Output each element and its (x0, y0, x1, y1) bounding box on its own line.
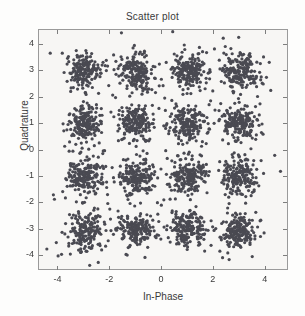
y-tick-mark (39, 176, 43, 177)
x-tick-mark-top (109, 30, 110, 34)
y-tick-label: -3 (16, 223, 34, 233)
y-tick-mark-right (283, 255, 287, 256)
y-tick-label: 2 (16, 91, 34, 101)
x-tick-label: -2 (97, 274, 121, 284)
y-tick-mark-right (283, 44, 287, 45)
x-tick-mark-top (57, 30, 58, 34)
y-tick-mark-right (283, 70, 287, 71)
y-tick-mark-right (283, 176, 287, 177)
x-axis-label: In-Phase (38, 291, 288, 302)
x-tick-mark (265, 266, 266, 270)
x-tick-mark (213, 266, 214, 270)
x-tick-mark-top (161, 30, 162, 34)
y-tick-mark-right (283, 150, 287, 151)
y-tick-mark (39, 97, 43, 98)
y-tick-mark-right (283, 229, 287, 230)
x-tick-label: 0 (149, 274, 173, 284)
x-tick-mark (57, 266, 58, 270)
y-tick-mark-right (283, 202, 287, 203)
x-tick-mark (161, 266, 162, 270)
x-tick-label: -4 (45, 274, 69, 284)
x-tick-mark-top (265, 30, 266, 34)
y-tick-label: -2 (16, 196, 34, 206)
plot-area (38, 29, 288, 270)
y-tick-mark-right (283, 97, 287, 98)
y-tick-label: 1 (16, 117, 34, 127)
y-tick-label: 3 (16, 64, 34, 74)
scatter-plot-figure: Scatter plot In-Phase Quadrature -4-2024… (0, 0, 305, 316)
x-tick-mark (109, 266, 110, 270)
y-tick-mark (39, 202, 43, 203)
x-tick-label: 2 (201, 274, 225, 284)
page-title: Scatter plot (0, 11, 305, 22)
y-tick-label: 4 (16, 38, 34, 48)
y-tick-label: 0 (16, 144, 34, 154)
y-tick-mark (39, 255, 43, 256)
y-tick-mark-right (283, 123, 287, 124)
y-tick-mark (39, 150, 43, 151)
y-tick-label: -1 (16, 170, 34, 180)
y-tick-mark (39, 229, 43, 230)
y-tick-mark (39, 123, 43, 124)
y-tick-mark (39, 70, 43, 71)
y-tick-mark (39, 44, 43, 45)
y-tick-label: -4 (16, 249, 34, 259)
scatter-points-canvas (39, 30, 288, 270)
x-tick-label: 4 (253, 274, 277, 284)
x-tick-mark-top (213, 30, 214, 34)
